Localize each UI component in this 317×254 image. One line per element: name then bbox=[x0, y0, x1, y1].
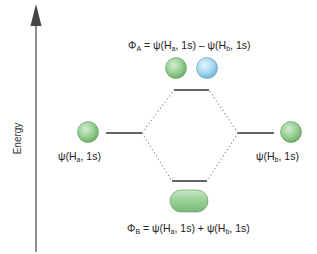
energy-axis bbox=[31, 4, 42, 252]
antibonding-level bbox=[166, 58, 218, 91]
bonding-equation: ΦB = ψ(Ha, 1s) + ψ(Hb, 1s) bbox=[127, 222, 250, 235]
bonding-level bbox=[170, 181, 208, 212]
left-atom-label: ψ(Ha, 1s) bbox=[58, 150, 101, 163]
correlation-lines bbox=[142, 90, 238, 181]
right-atomic-orbital bbox=[238, 122, 302, 143]
bonding-lobe bbox=[170, 190, 208, 212]
antibonding-lobe-a bbox=[166, 58, 187, 79]
antibonding-lobe-b bbox=[197, 58, 218, 79]
antibonding-equation: ΦA = ψ(Ha, 1s) – ψ(Hb, 1s) bbox=[128, 39, 251, 52]
right-atom-label: ψ(Hb, 1s) bbox=[256, 150, 299, 163]
energy-axis-label: Energy bbox=[12, 123, 23, 155]
left-atomic-orbital bbox=[78, 122, 143, 143]
arrowhead-icon bbox=[31, 4, 42, 26]
